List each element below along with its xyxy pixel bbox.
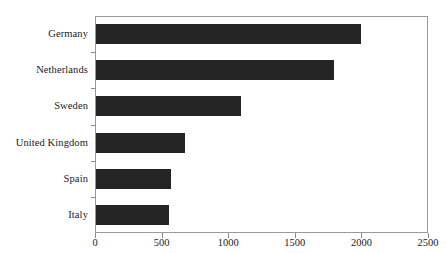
bar-italy[interactable] [96, 205, 169, 225]
y-axis-tick-mark [91, 161, 96, 162]
y-axis-tick-mark [91, 88, 96, 89]
bar-germany[interactable] [96, 24, 361, 44]
bar-spain[interactable] [96, 169, 171, 189]
x-axis-tick-label: 0 [92, 238, 97, 249]
chart-container: GermanyNetherlandsSwedenUnited KingdomSp… [0, 0, 446, 253]
y-axis-tick-mark [91, 125, 96, 126]
x-axis-tick-label: 1000 [218, 238, 239, 249]
x-axis-tick-label: 500 [154, 238, 170, 249]
x-axis-tick-label: 1500 [284, 238, 305, 249]
bars-layer [0, 0, 446, 253]
bar-sweden[interactable] [96, 96, 241, 116]
y-axis-tick-mark [91, 197, 96, 198]
x-axis-tick-label: 2500 [418, 238, 439, 249]
x-axis-tick-label: 2000 [351, 238, 372, 249]
bar-netherlands[interactable] [96, 60, 334, 80]
bar-united-kingdom[interactable] [96, 133, 185, 153]
y-axis-tick-mark [91, 52, 96, 53]
